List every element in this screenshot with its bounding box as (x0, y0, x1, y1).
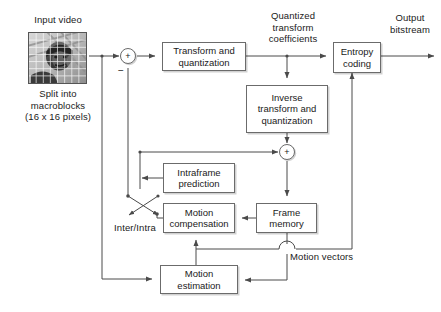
label-split-caption: Split into macroblocks (16 x 16 pixels) (14, 88, 102, 123)
block-motion-estimation[interactable]: Motion estimation (160, 265, 238, 294)
block-frame-memory[interactable]: Frame memory (256, 203, 317, 233)
block-inverse-transform-quantization[interactable]: Inverse transform and quantization (246, 85, 328, 133)
label-input-video: Input video (24, 14, 92, 26)
video-encoder-diagram: Input video Split into macroblocks (16 x… (0, 0, 441, 312)
block-transform-quantization[interactable]: Transform and quantization (162, 42, 246, 71)
block-motion-compensation[interactable]: Motion compensation (163, 203, 235, 233)
label-motion-vectors: Motion vectors (290, 251, 378, 263)
thumbnail-image (29, 33, 86, 83)
label-output-bitstream: Output bitstream (382, 12, 438, 35)
input-video-thumbnail (28, 32, 87, 84)
label-quantized-coefficients: Quantized transform coefficients (255, 10, 331, 45)
label-inter-intra: Inter/Intra (108, 222, 162, 234)
block-intraframe-prediction[interactable]: Intraframe prediction (163, 163, 235, 193)
adder-reconstruction[interactable]: + (279, 144, 295, 160)
adder-difference[interactable]: + (120, 48, 136, 64)
block-entropy-coding[interactable]: Entropy coding (333, 42, 381, 73)
adder-minus-sign: − (118, 66, 124, 76)
